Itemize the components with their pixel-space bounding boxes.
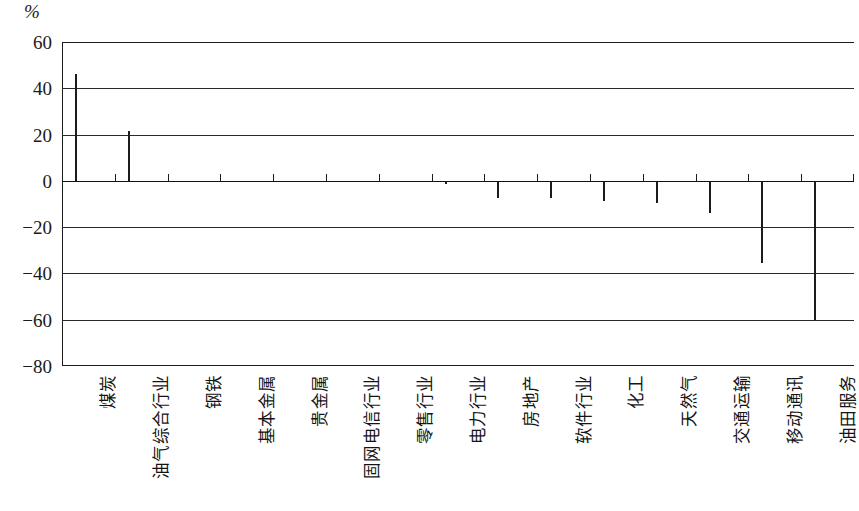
bar: [709, 181, 711, 213]
bar: [656, 181, 658, 203]
x-axis-category-label: 钢铁: [201, 374, 225, 409]
y-axis-tick-labels: 6040200−20−40−60−80: [0, 0, 52, 511]
y-axis-tick-label: −40: [0, 264, 52, 283]
x-axis-tick-mark: [590, 174, 591, 181]
x-axis-category-label: 固网电信行业: [359, 374, 383, 479]
plot-border-top: [62, 42, 854, 43]
x-axis-tick-mark: [326, 174, 327, 181]
gridline: [62, 135, 854, 136]
x-axis-category-label: 基本金属: [254, 374, 278, 444]
x-axis-tick-mark: [62, 174, 63, 181]
gridline: [62, 227, 854, 228]
bar: [75, 74, 77, 180]
x-axis-tick-mark: [379, 174, 380, 181]
y-axis-tick-label: −80: [0, 357, 52, 376]
x-axis-category-label: 电力行业: [465, 374, 489, 444]
bar: [550, 181, 552, 198]
y-axis-tick-label: 40: [0, 79, 52, 98]
x-axis-tick-mark: [696, 174, 697, 181]
x-axis-tick-mark: [853, 174, 854, 181]
plot-border-left: [62, 42, 63, 366]
gridline: [62, 88, 854, 89]
x-axis-category-label: 油田服务: [835, 374, 859, 444]
x-axis-tick-mark: [115, 174, 116, 181]
x-axis-tick-mark: [168, 174, 169, 181]
x-axis-tick-mark: [432, 174, 433, 181]
zero-axis-line: [62, 181, 854, 182]
x-axis-tick-mark: [273, 174, 274, 181]
bar: [814, 181, 816, 320]
y-axis-tick-label: 20: [0, 125, 52, 144]
x-axis-category-label: 化工: [623, 374, 647, 409]
x-axis-category-label: 移动通讯: [782, 374, 806, 444]
bar: [603, 181, 605, 201]
x-axis-tick-mark: [748, 174, 749, 181]
y-axis-tick-label: 0: [0, 171, 52, 190]
x-axis-category-labels: 煤炭油气综合行业钢铁基本金属贵金属固网电信行业零售行业电力行业房地产软件行业化工…: [62, 366, 854, 511]
x-axis-category-label: 油气综合行业: [148, 374, 172, 479]
plot-area: [62, 42, 854, 366]
x-axis-tick-mark: [643, 174, 644, 181]
x-axis-tick-mark: [484, 174, 485, 181]
x-axis-category-label: 煤炭: [95, 374, 119, 409]
x-axis-category-label: 交通运输: [729, 374, 753, 444]
x-axis-category-label: 天然气: [676, 374, 700, 427]
x-axis-category-label: 软件行业: [571, 374, 595, 444]
x-axis-tick-mark: [537, 174, 538, 181]
gridline: [62, 320, 854, 321]
y-axis-tick-label: 60: [0, 33, 52, 52]
y-axis-tick-label: −60: [0, 310, 52, 329]
x-axis-category-label: 房地产: [518, 374, 542, 427]
x-axis-category-label: 贵金属: [307, 374, 331, 427]
x-axis-tick-mark: [220, 174, 221, 181]
gridline: [62, 273, 854, 274]
bar: [128, 131, 130, 181]
bar: [497, 181, 499, 198]
x-axis-category-label: 零售行业: [412, 374, 436, 444]
bar: [761, 181, 763, 263]
x-axis-tick-mark: [801, 174, 802, 181]
y-axis-tick-label: −20: [0, 218, 52, 237]
